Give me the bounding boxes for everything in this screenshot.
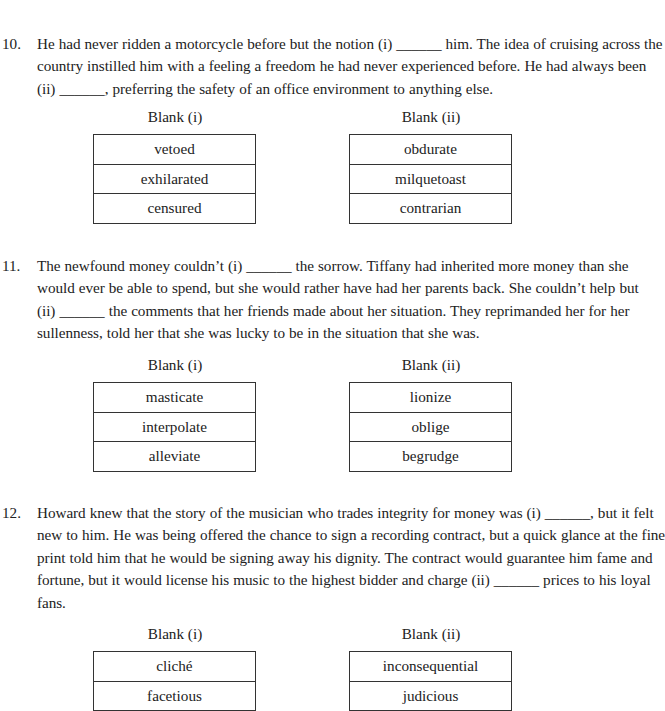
question-line: fortune, but it would license his music … (37, 569, 622, 591)
question-line: He had never ridden a motorcycle before … (37, 33, 622, 55)
choice-option[interactable]: exhilarated (94, 164, 255, 194)
question-text: Howard knew that the story of the musici… (37, 502, 622, 614)
blank-ii-choices-q12: Blank (ii) inconsequential judicious (349, 651, 513, 711)
choice-option[interactable]: obdurate (350, 135, 511, 164)
blank-label: Blank (ii) (349, 625, 513, 643)
choice-option[interactable]: judicious (350, 681, 511, 711)
choice-option[interactable]: censured (94, 193, 255, 223)
choice-table: cliché facetious (93, 651, 256, 711)
choice-option[interactable]: facetious (94, 681, 255, 711)
choice-option[interactable]: vetoed (94, 135, 255, 164)
choice-option[interactable]: alleviate (94, 441, 255, 471)
choice-table: obdurate milquetoast contrarian (349, 134, 512, 224)
choice-option[interactable]: begrudge (350, 441, 511, 471)
choice-table: inconsequential judicious (349, 651, 512, 711)
blank-ii-choices-q10: Blank (ii) obdurate milquetoast contrari… (349, 134, 513, 224)
question-line: fans. (37, 592, 622, 614)
blank-i-choices-q12: Blank (i) cliché facetious (93, 651, 257, 711)
blank-i-choices-q11: Blank (i) masticate interpolate alleviat… (93, 382, 257, 472)
choice-option[interactable]: contrarian (350, 193, 511, 223)
choice-table: vetoed exhilarated censured (93, 134, 256, 224)
question-line: Howard knew that the story of the musici… (37, 502, 622, 524)
question-line: print told him that he would be signing … (37, 547, 622, 569)
choice-option[interactable]: masticate (94, 383, 255, 412)
choice-option[interactable]: oblige (350, 412, 511, 442)
question-text: He had never ridden a motorcycle before … (37, 33, 622, 100)
question-text: The newfound money couldn’t (i) ______ t… (37, 255, 622, 345)
choice-option[interactable]: inconsequential (350, 652, 511, 681)
blank-ii-choices-q11: Blank (ii) lionize oblige begrudge (349, 382, 513, 472)
blank-i-choices-q10: Blank (i) vetoed exhilarated censured (93, 134, 257, 224)
question-line: (ii) ______, preferring the safety of an… (37, 78, 622, 100)
choice-table: masticate interpolate alleviate (93, 382, 256, 472)
question-number: 11. (2, 255, 20, 277)
question-line: (ii) ______ the comments that her friend… (37, 300, 622, 322)
question-number: 12. (2, 502, 21, 524)
question-line: country instilled him with a feeling a f… (37, 55, 622, 77)
question-number: 10. (2, 33, 21, 55)
choice-table: lionize oblige begrudge (349, 382, 512, 472)
blank-label: Blank (i) (93, 108, 257, 126)
question-line: would ever be able to spend, but she wou… (37, 277, 622, 299)
choice-option[interactable]: cliché (94, 652, 255, 681)
choice-option[interactable]: lionize (350, 383, 511, 412)
question-line: sullenness, told her that she was lucky … (37, 322, 622, 344)
blank-label: Blank (ii) (349, 108, 513, 126)
choice-option[interactable]: milquetoast (350, 164, 511, 194)
blank-label: Blank (i) (93, 625, 257, 643)
blank-label: Blank (i) (93, 356, 257, 374)
blank-label: Blank (ii) (349, 356, 513, 374)
choice-option[interactable]: interpolate (94, 412, 255, 442)
question-line: new to him. He was being offered the cha… (37, 524, 622, 546)
question-line: The newfound money couldn’t (i) ______ t… (37, 255, 622, 277)
